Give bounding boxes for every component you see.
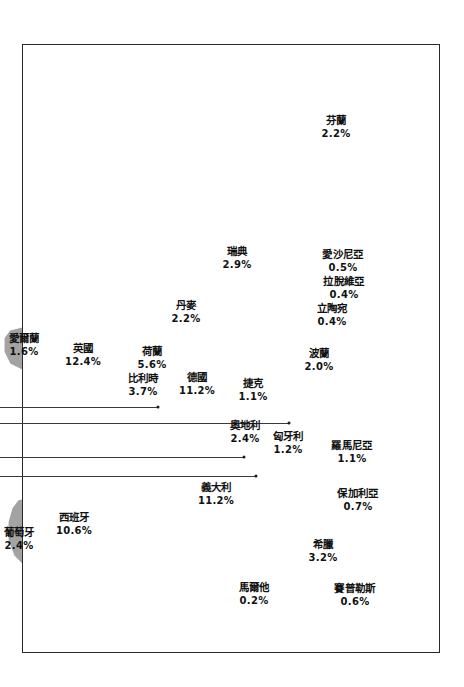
country-name: 馬爾他: [239, 582, 270, 594]
country-label-portugal: 葡萄牙2.4%: [4, 527, 35, 551]
country-label-malta: 馬爾他0.2%: [239, 582, 270, 606]
country-name: 愛爾蘭: [9, 333, 40, 345]
country-label-cyprus: 賽普勒斯0.6%: [334, 583, 375, 607]
country-label-sweden: 瑞典2.9%: [223, 246, 252, 270]
country-label-poland: 波蘭2.0%: [305, 348, 334, 372]
country-label-lithuania: 立陶宛0.4%: [317, 303, 348, 327]
country-value: 2.2%: [172, 313, 201, 324]
country-value: 0.5%: [322, 262, 363, 273]
country-label-germany: 德國11.2%: [179, 372, 215, 396]
country-name: 德國: [179, 372, 215, 384]
country-label-finland: 芬蘭2.2%: [322, 115, 351, 139]
leader-line: [0, 476, 256, 477]
country-name: 西班牙: [56, 512, 92, 524]
country-label-bulgaria: 保加利亞0.7%: [337, 488, 378, 512]
country-value: 11.2%: [179, 385, 215, 396]
leader-line: [0, 407, 158, 408]
country-name: 立陶宛: [317, 303, 348, 315]
country-value: 12.4%: [65, 356, 101, 367]
country-name: 羅馬尼亞: [331, 440, 372, 452]
leader-endpoint-dot: [288, 422, 291, 425]
country-name: 波蘭: [305, 348, 334, 360]
country-label-spain: 西班牙10.6%: [56, 512, 92, 536]
country-name: 拉脫維亞: [323, 276, 364, 288]
country-value: 0.7%: [337, 501, 378, 512]
country-label-estonia: 愛沙尼亞0.5%: [322, 249, 363, 273]
country-value: 2.4%: [230, 433, 261, 444]
country-value: 0.2%: [239, 595, 270, 606]
country-value: 2.2%: [322, 128, 351, 139]
country-name: 愛沙尼亞: [322, 249, 363, 261]
country-name: 匈牙利: [273, 431, 304, 443]
country-value: 10.6%: [56, 525, 92, 536]
country-value: 0.4%: [323, 289, 364, 300]
country-label-belgium: 比利時3.7%: [128, 373, 159, 397]
country-value: 2.0%: [305, 361, 334, 372]
country-value: 1.1%: [239, 391, 268, 402]
country-label-romania: 羅馬尼亞1.1%: [331, 440, 372, 464]
country-label-netherlands: 荷蘭5.6%: [138, 346, 167, 370]
country-name: 義大利: [198, 482, 234, 494]
country-value: 11.2%: [198, 495, 234, 506]
leader-endpoint-dot: [243, 456, 246, 459]
country-value: 5.6%: [138, 359, 167, 370]
leader-endpoint-dot: [157, 406, 160, 409]
country-name: 葡萄牙: [4, 527, 35, 539]
country-value: 1.6%: [9, 346, 40, 357]
country-value: 2.4%: [4, 540, 35, 551]
country-label-latvia: 拉脫維亞0.4%: [323, 276, 364, 300]
country-name: 奧地利: [230, 420, 261, 432]
country-label-denmark: 丹麥2.2%: [172, 300, 201, 324]
country-label-austria: 奧地利2.4%: [230, 420, 261, 444]
country-name: 賽普勒斯: [334, 583, 375, 595]
country-label-italy: 義大利11.2%: [198, 482, 234, 506]
country-name: 荷蘭: [138, 346, 167, 358]
country-name: 保加利亞: [337, 488, 378, 500]
country-value: 0.4%: [317, 316, 348, 327]
country-name: 英國: [65, 343, 101, 355]
leader-line: [0, 457, 244, 458]
country-value: 1.1%: [331, 453, 372, 464]
europe-percentage-map: 芬蘭2.2%瑞典2.9%丹麥2.2%愛沙尼亞0.5%拉脫維亞0.4%立陶宛0.4…: [0, 0, 464, 687]
country-label-czechia: 捷克1.1%: [239, 378, 268, 402]
country-label-greece: 希臘3.2%: [309, 539, 338, 563]
country-name: 芬蘭: [322, 115, 351, 127]
country-value: 2.9%: [223, 259, 252, 270]
leader-endpoint-dot: [255, 475, 258, 478]
country-value: 1.2%: [273, 444, 304, 455]
country-value: 3.2%: [309, 552, 338, 563]
country-name: 希臘: [309, 539, 338, 551]
country-name: 瑞典: [223, 246, 252, 258]
country-value: 3.7%: [128, 386, 159, 397]
country-name: 捷克: [239, 378, 268, 390]
country-label-united-kingdom: 英國12.4%: [65, 343, 101, 367]
country-label-hungary: 匈牙利1.2%: [273, 431, 304, 455]
country-label-ireland: 愛爾蘭1.6%: [9, 333, 40, 357]
country-name: 比利時: [128, 373, 159, 385]
country-name: 丹麥: [172, 300, 201, 312]
country-value: 0.6%: [334, 596, 375, 607]
